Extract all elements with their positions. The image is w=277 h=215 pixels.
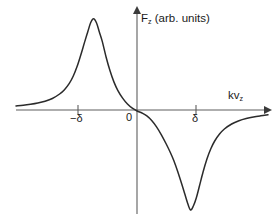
y-axis-label-subscript: z — [148, 18, 152, 26]
x-axis-label: kvz — [228, 90, 243, 102]
figure-container: Fz (arb. units) kvz −δ 0 δ — [0, 0, 277, 215]
y-axis-arrowhead — [133, 6, 141, 14]
y-axis-label-units: (arb. units) — [152, 12, 210, 24]
x-axis-arrowhead — [264, 106, 272, 114]
y-axis-label: Fz (arb. units) — [141, 13, 210, 25]
tick-label-neg-delta: −δ — [70, 113, 83, 124]
x-axis-label-symbol: kv — [228, 89, 240, 101]
x-axis-label-subscript: z — [240, 95, 244, 103]
plot-svg — [0, 0, 277, 215]
tick-label-pos-delta: δ — [192, 113, 198, 124]
y-axis-label-symbol: F — [141, 12, 148, 24]
force-curve — [16, 19, 268, 210]
tick-label-zero: 0 — [126, 112, 132, 123]
